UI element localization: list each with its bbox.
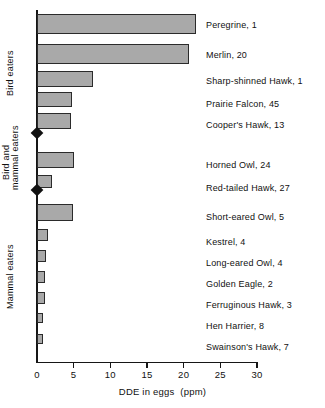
x-tick-label: 0 xyxy=(34,369,40,380)
x-tick xyxy=(220,363,221,368)
bar-label: Horned Owl, 24 xyxy=(206,160,271,170)
bar xyxy=(37,292,45,304)
bar xyxy=(37,152,74,168)
bar-label: Hen Harrier, 8 xyxy=(206,321,264,331)
bar-label: Swainson's Hawk, 7 xyxy=(206,342,289,352)
bar-label: Prairie Falcon, 45 xyxy=(206,99,279,109)
x-tick-label: 30 xyxy=(251,369,262,380)
bar-label: Long-eared Owl, 4 xyxy=(206,258,283,268)
bar-label: Kestrel, 4 xyxy=(206,237,246,247)
bar xyxy=(37,14,196,34)
bar xyxy=(37,113,71,129)
x-tick-label: 10 xyxy=(105,369,116,380)
chart-container: Bird eaters Bird and mammal eaters Mamma… xyxy=(0,0,325,408)
x-tick xyxy=(183,363,184,368)
x-axis-units: (ppm) xyxy=(180,386,206,397)
x-tick-label: 20 xyxy=(178,369,189,380)
group-label-bird-and-mammal-eaters: Bird and mammal eaters xyxy=(2,134,24,190)
x-tick xyxy=(256,363,257,368)
group-label-bird-eaters: Bird eaters xyxy=(6,14,18,132)
bar xyxy=(37,250,46,262)
bar-label: Merlin, 20 xyxy=(206,50,247,60)
bar-label: Golden Eagle, 2 xyxy=(206,279,273,289)
bar xyxy=(37,313,43,323)
x-axis-title: DDE in eggs(ppm) xyxy=(0,386,325,397)
x-tick xyxy=(73,363,74,368)
x-tick-label: 5 xyxy=(71,369,77,380)
bar xyxy=(37,229,48,241)
bar xyxy=(37,334,43,344)
group-label-mammal-eaters: Mammal eaters xyxy=(6,196,18,358)
bar xyxy=(37,204,73,221)
bar-label: Sharp-shinned Hawk, 1 xyxy=(206,76,303,86)
bar xyxy=(37,71,93,87)
x-tick xyxy=(146,363,147,368)
bar-label: Short-eared Owl, 5 xyxy=(206,212,284,222)
group-label-line-2: mammal eaters xyxy=(10,125,20,190)
x-tick xyxy=(110,363,111,368)
bar-label: Red-tailed Hawk, 27 xyxy=(206,183,290,193)
x-tick-label: 25 xyxy=(215,369,226,380)
bar-label: Peregrine, 1 xyxy=(206,20,257,30)
bar xyxy=(37,44,189,64)
bar xyxy=(37,92,72,107)
bar-label: Ferruginous Hawk, 3 xyxy=(206,300,292,310)
x-tick-label: 15 xyxy=(141,369,152,380)
bar-label: Cooper's Hawk, 13 xyxy=(206,120,284,130)
bar xyxy=(37,271,45,283)
x-axis-title-text: DDE in eggs xyxy=(119,386,175,397)
